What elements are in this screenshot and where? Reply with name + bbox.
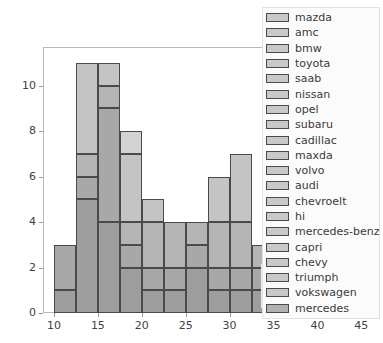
legend-color-swatch <box>266 136 289 145</box>
legend-item[interactable]: chevy <box>266 255 376 270</box>
legend-item[interactable]: mercedes-benz <box>266 224 376 239</box>
histogram-bar-segment <box>208 222 230 267</box>
histogram-bar-segment <box>208 177 230 222</box>
legend-item-label: mercedes <box>295 303 349 314</box>
x-tick-label: 15 <box>86 319 110 332</box>
legend-color-swatch <box>266 120 289 129</box>
histogram-bar <box>54 245 76 313</box>
histogram-bar-segment <box>164 222 186 267</box>
legend-color-swatch <box>266 166 289 175</box>
legend-item-label: nissan <box>295 89 330 100</box>
legend-color-swatch <box>266 258 289 267</box>
legend-color-swatch <box>266 273 289 282</box>
legend-color-swatch <box>266 44 289 53</box>
histogram-bar-segment <box>54 290 76 313</box>
legend-item-label: bmw <box>295 43 322 54</box>
histogram-bar <box>230 154 252 313</box>
legend-item[interactable]: triumph <box>266 270 376 285</box>
legend-color-swatch <box>266 212 289 221</box>
histogram-bar-segment <box>142 222 164 267</box>
histogram-bar-segment <box>120 268 142 313</box>
x-tick-label: 30 <box>218 319 242 332</box>
legend-item[interactable]: hi <box>266 209 376 224</box>
histogram-bar <box>98 63 120 313</box>
histogram-bar-segment <box>142 199 164 222</box>
legend-color-swatch <box>266 13 289 22</box>
y-tick-mark <box>39 268 43 269</box>
histogram-bar-segment <box>230 222 252 267</box>
histogram-bar-segment <box>142 268 164 291</box>
y-tick-mark <box>39 86 43 87</box>
legend-item[interactable]: audi <box>266 178 376 193</box>
histogram-bar <box>208 177 230 313</box>
y-tick-label: 8 <box>29 124 36 137</box>
legend-item[interactable]: bmw <box>266 41 376 56</box>
legend-item-label: amc <box>295 27 319 38</box>
y-tick-mark <box>39 131 43 132</box>
legend-item[interactable]: opel <box>266 102 376 117</box>
histogram-bar-segment <box>164 268 186 291</box>
histogram-bar-segment <box>98 86 120 109</box>
legend-item[interactable]: nissan <box>266 86 376 101</box>
histogram-bar-segment <box>186 245 208 268</box>
histogram-bar-segment <box>230 290 252 313</box>
legend-item[interactable]: amc <box>266 25 376 40</box>
histogram-bar <box>186 222 208 313</box>
legend-item-label: cadillac <box>295 135 337 146</box>
legend-item[interactable]: toyota <box>266 56 376 71</box>
y-tick-label: 4 <box>29 215 36 228</box>
y-tick-mark <box>39 222 43 223</box>
histogram-bar-segment <box>76 199 98 313</box>
histogram-bar-segment <box>120 131 142 154</box>
y-axis: 0246810 <box>0 47 43 313</box>
y-tick-label: 0 <box>29 306 36 319</box>
legend-item[interactable]: subaru <box>266 117 376 132</box>
y-tick-label: 6 <box>29 170 36 183</box>
legend-item[interactable]: maxda <box>266 148 376 163</box>
legend-item[interactable]: capri <box>266 239 376 254</box>
histogram-bar-segment <box>164 290 186 313</box>
legend-color-swatch <box>266 105 289 114</box>
legend-color-swatch <box>266 90 289 99</box>
legend-item-label: mercedes-benz <box>295 226 380 237</box>
x-tick-label: 25 <box>174 319 198 332</box>
legend-item-label: saab <box>295 73 321 84</box>
x-tick-mark <box>54 313 55 317</box>
legend-color-swatch <box>266 304 289 313</box>
histogram-bar-segment <box>120 245 142 268</box>
legend-color-swatch <box>266 197 289 206</box>
x-tick-mark <box>186 313 187 317</box>
legend-item[interactable]: mazda <box>266 10 376 25</box>
legend-item[interactable]: chevroelt <box>266 194 376 209</box>
x-tick-label: 45 <box>349 319 373 332</box>
legend-item-label: capri <box>295 242 322 253</box>
legend-item[interactable]: mercedes <box>266 301 376 316</box>
histogram-bar <box>76 63 98 313</box>
histogram-bar-segment <box>98 63 120 86</box>
y-tick-mark <box>39 177 43 178</box>
legend-item-label: opel <box>295 104 319 115</box>
histogram-bar-segment <box>186 222 208 245</box>
legend-color-swatch <box>266 288 289 297</box>
histogram-bar-segment <box>98 222 120 313</box>
x-tick-mark <box>230 313 231 317</box>
legend-item-label: hi <box>295 211 305 222</box>
legend-item-label: toyota <box>295 58 330 69</box>
legend-item[interactable]: saab <box>266 71 376 86</box>
histogram-bar-segment <box>120 222 142 245</box>
legend-color-swatch <box>266 59 289 68</box>
legend-item-label: volvo <box>295 165 325 176</box>
legend-color-swatch <box>266 28 289 37</box>
legend-color-swatch <box>266 227 289 236</box>
histogram-bar-segment <box>208 290 230 313</box>
histogram-bar-segment <box>142 290 164 313</box>
histogram-bar-segment <box>186 268 208 313</box>
x-tick-mark <box>98 313 99 317</box>
legend-item[interactable]: cadillac <box>266 132 376 147</box>
histogram-bar-segment <box>120 154 142 222</box>
legend-color-swatch <box>266 243 289 252</box>
legend-item-label: mazda <box>295 12 332 23</box>
legend-item[interactable]: vokswagen <box>266 285 376 300</box>
legend-item[interactable]: volvo <box>266 163 376 178</box>
legend-item-label: chevroelt <box>295 196 346 207</box>
